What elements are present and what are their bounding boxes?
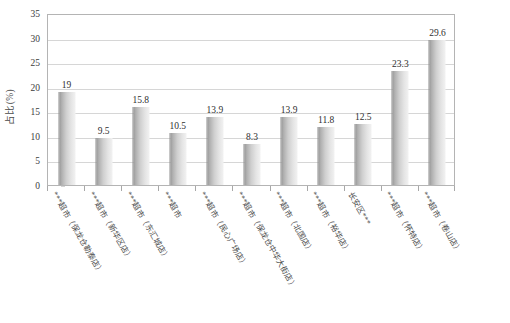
bar[interactable] [95,138,112,185]
bar-slot: 11.8 [308,15,345,185]
bar-value-label: 11.8 [318,115,334,125]
bar-value-label: 8.3 [246,132,258,142]
bar[interactable] [281,117,298,185]
bar[interactable] [132,107,149,185]
bar[interactable] [318,127,335,185]
x-category-label: ***超市（北国店） [272,190,315,255]
y-tick-label: 25 [18,58,40,68]
bar-value-label: 12.5 [355,112,372,122]
x-category-label: ***超市（卷山店） [421,190,464,255]
y-tick-label: 15 [18,107,40,117]
y-tick-label: 35 [18,9,40,19]
bar[interactable] [169,133,186,185]
y-tick-label: 5 [18,156,40,166]
bar-slot: 13.9 [271,15,308,185]
y-axis-title: 占比(%) [2,62,16,152]
bar[interactable] [58,92,75,185]
bar[interactable] [243,144,260,185]
bar-value-label: 13.9 [281,105,298,115]
bar-slot: 9.5 [85,15,122,185]
bar-slot: 15.8 [122,15,159,185]
bar-slot: 8.3 [233,15,270,185]
plot-area: 199.515.810.513.98.313.911.812.523.329.6 [47,14,455,186]
bar[interactable] [206,117,223,185]
bar-slot: 12.5 [345,15,382,185]
bars-layer: 199.515.810.513.98.313.911.812.523.329.6 [48,15,454,185]
y-tick-label: 10 [18,132,40,142]
bar-value-label: 23.3 [392,59,409,69]
bar-value-label: 15.8 [132,95,149,105]
bar-slot: 29.6 [419,15,456,185]
y-tick-label: 20 [18,83,40,93]
bar-slot: 10.5 [159,15,196,185]
bar[interactable] [429,40,446,185]
y-tick-label: 30 [18,34,40,44]
x-category-label: 长安区*** [346,190,372,227]
bar[interactable] [355,124,372,185]
bar-value-label: 19 [62,80,72,90]
x-category-label: ***超市（裕华店） [309,190,352,255]
bar[interactable] [392,71,409,186]
bar-value-label: 10.5 [169,121,186,131]
bar-slot: 19 [48,15,85,185]
bar-slot: 23.3 [382,15,419,185]
x-category-label: ***超市 [161,190,183,220]
x-category-label: ***超市（怀特店） [384,190,427,255]
bar-slot: 13.9 [196,15,233,185]
bar-value-label: 13.9 [207,105,224,115]
bar-value-label: 9.5 [98,126,110,136]
x-axis-category-labels: ***超市（保龙仓勒泰店）***超市（新华区店）***超市（东汇城店）***超市… [0,190,510,323]
bar-chart: 占比(%) 05101520253035 199.515.810.513.98.… [0,0,510,323]
bar-value-label: 29.6 [429,28,446,38]
